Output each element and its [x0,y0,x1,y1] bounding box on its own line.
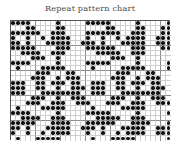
pattern-grid-container [10,20,170,140]
chart-page: Repeat pattern chart [0,0,180,149]
page-title: Repeat pattern chart [0,3,180,13]
pattern-cell [166,136,171,141]
pattern-grid [11,21,171,141]
